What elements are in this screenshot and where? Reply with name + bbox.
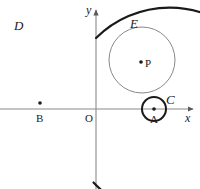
y-axis-label: y <box>85 3 92 17</box>
point-dot-p <box>139 60 143 64</box>
label-a: A <box>150 113 158 125</box>
point-dot-b <box>38 101 42 105</box>
circle-e <box>109 27 175 93</box>
x-axis-label: x <box>184 111 191 125</box>
figure-canvas: D E C B P A x y O <box>0 0 200 189</box>
point-dot-a <box>152 107 156 111</box>
origin-label: O <box>85 112 93 124</box>
geometry-figure: D E C B P A x y O <box>0 0 200 189</box>
label-d: D <box>13 18 24 33</box>
label-c: C <box>166 92 175 107</box>
label-b: B <box>36 112 43 124</box>
label-e: E <box>129 16 138 31</box>
label-p: P <box>145 57 151 69</box>
